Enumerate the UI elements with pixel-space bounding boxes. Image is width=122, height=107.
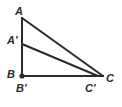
vertex-dot-b (19, 73, 24, 78)
vertex-label-c-prime: C' (85, 83, 96, 94)
vertex-label-c: C (106, 73, 114, 84)
vertex-label-b: B (7, 69, 15, 80)
vertex-label-b-prime: B' (16, 83, 27, 94)
geometry-figure: A A' B B' C' C (0, 0, 122, 107)
vertex-label-a: A (15, 6, 23, 17)
vertex-label-a-prime: A' (7, 35, 18, 46)
